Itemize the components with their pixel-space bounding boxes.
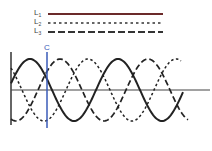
marker-label-c: C xyxy=(44,44,50,52)
legend-label-l3: L3 xyxy=(34,27,41,37)
waveform-plot xyxy=(0,0,212,151)
diagram: L1 L2 L3 C xyxy=(0,0,212,151)
legend xyxy=(48,14,163,32)
